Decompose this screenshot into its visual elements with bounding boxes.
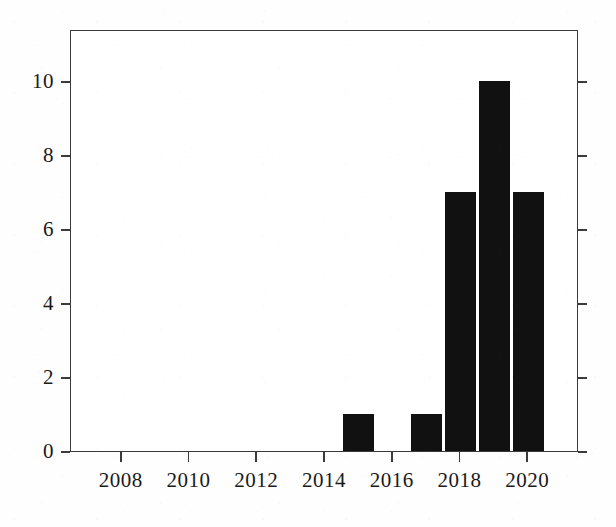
- x-axis-tick-label: 2008: [99, 468, 143, 492]
- x-axis-tick-mark: [188, 452, 190, 462]
- bar: [411, 414, 442, 451]
- bar: [343, 414, 374, 451]
- x-axis-tick-label: 2012: [234, 468, 278, 492]
- y-axis-tick-mark-mirror: [578, 303, 587, 305]
- y-axis-tick-mark: [61, 303, 70, 305]
- y-axis-tick-mark: [61, 155, 70, 157]
- y-axis-tick-label: 4: [43, 293, 54, 314]
- x-axis-tick-mark: [459, 452, 461, 462]
- x-axis-tick-label: 2016: [370, 468, 414, 492]
- y-axis-tick-label: 10: [32, 71, 54, 92]
- y-axis-tick-label: 0: [43, 441, 54, 462]
- bars-layer: [71, 31, 577, 451]
- x-axis-tick-label: 2014: [302, 468, 346, 492]
- x-axis-tick-mark: [323, 452, 325, 462]
- y-axis-tick-mark-mirror: [578, 377, 587, 379]
- x-axis-tick-mark: [120, 452, 122, 462]
- x-axis-tick-label: 2020: [505, 468, 549, 492]
- x-axis-tick-label: 2010: [167, 468, 211, 492]
- x-axis-tick-label: 2018: [437, 468, 481, 492]
- y-axis-tick-label: 2: [43, 367, 54, 388]
- y-axis-tick-mark-mirror: [578, 155, 587, 157]
- y-axis-tick-mark: [61, 81, 70, 83]
- y-axis-tick-mark: [61, 451, 70, 453]
- plot-area: [70, 30, 578, 452]
- bar: [513, 192, 544, 451]
- y-axis-tick-label: 8: [43, 145, 54, 166]
- y-axis-tick-mark: [61, 377, 70, 379]
- y-axis-tick-label: 6: [43, 219, 54, 240]
- y-axis-tick-mark-mirror: [578, 229, 587, 231]
- y-axis-tick-mark-mirror: [578, 451, 587, 453]
- x-axis-tick-mark: [526, 452, 528, 462]
- bar-chart-figure: 1086420 2008201020122014201620182020: [0, 0, 616, 527]
- y-axis-tick-mark: [61, 229, 70, 231]
- x-axis-tick-mark: [255, 452, 257, 462]
- y-axis-tick-mark-mirror: [578, 81, 587, 83]
- bar: [479, 81, 510, 451]
- bar: [445, 192, 476, 451]
- x-axis-tick-mark: [391, 452, 393, 462]
